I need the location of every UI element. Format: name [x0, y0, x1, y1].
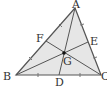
label-c: C	[101, 70, 107, 83]
label-b: B	[3, 70, 11, 83]
triangle-abc	[16, 8, 101, 75]
triangle-diagram: A F E G B D C	[0, 0, 107, 87]
label-f: F	[36, 32, 44, 45]
label-d: D	[55, 76, 64, 87]
label-g: G	[63, 55, 72, 68]
label-e: E	[90, 35, 98, 48]
label-a: A	[71, 0, 81, 11]
